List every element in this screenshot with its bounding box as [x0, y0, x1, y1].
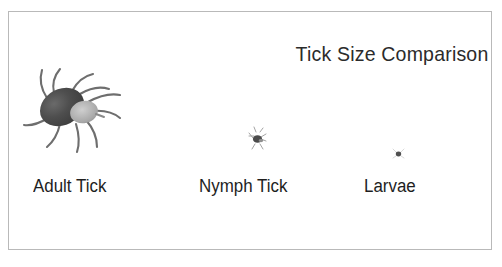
- specimen-nymph-tick: [182, 62, 332, 162]
- larvae-tick-icon: [330, 62, 480, 162]
- nymph-tick-icon: [182, 62, 332, 162]
- specimen-label-adult-tick: Adult Tick: [33, 176, 106, 197]
- specimen-label-nymph-tick: Nymph Tick: [199, 176, 287, 197]
- specimen-adult-tick: [14, 62, 164, 162]
- tick-size-comparison-figure: Tick Size Comparison: [0, 0, 502, 267]
- specimen-larvae-tick: [330, 62, 480, 162]
- specimen-label-larvae: Larvae: [364, 176, 416, 197]
- adult-tick-icon: [14, 62, 164, 162]
